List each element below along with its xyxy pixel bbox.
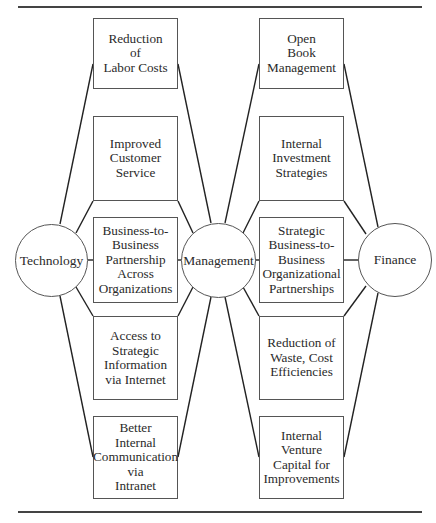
box-label: Open Book Management (267, 32, 336, 76)
node-management: Management (181, 223, 256, 298)
box-label: Internal Venture Capital for Improvement… (263, 429, 339, 487)
node-label: Finance (374, 252, 417, 268)
box-label: Improved Customer Service (110, 137, 161, 181)
box-internal-venture-capital: Internal Venture Capital for Improvement… (259, 416, 344, 499)
node-finance: Finance (358, 223, 432, 297)
box-label: Internal Investment Strategies (272, 137, 331, 181)
box-label: Better Internal Communication via Intran… (93, 421, 178, 494)
box-strategic-b2b-partnerships: Strategic Business-to- Business Organiza… (259, 217, 344, 303)
node-label: Management (183, 253, 253, 269)
box-access-strategic-information: Access to Strategic Information via Inte… (93, 316, 178, 400)
box-better-internal-communication: Better Internal Communication via Intran… (93, 416, 178, 499)
box-label: Business-to- Business Partnership Across… (99, 224, 173, 297)
node-label: Technology (20, 253, 84, 269)
box-label: Reduction of Labor Costs (103, 32, 167, 76)
box-label: Reduction of Waste, Cost Efficiencies (267, 336, 336, 380)
diagram-canvas: Reduction of Labor Costs Improved Custom… (0, 0, 436, 523)
box-label: Strategic Business-to- Business Organiza… (262, 224, 340, 297)
box-improved-customer-service: Improved Customer Service (93, 116, 178, 201)
box-open-book-management: Open Book Management (259, 18, 344, 89)
edge-tech-box1 (60, 64, 93, 224)
box-reduction-of-waste: Reduction of Waste, Cost Efficiencies (259, 316, 344, 400)
box-label: Access to Strategic Information via Inte… (104, 329, 167, 387)
box-b2b-partnership: Business-to- Business Partnership Across… (93, 217, 178, 303)
node-technology: Technology (15, 224, 88, 297)
box-reduction-of-labor-costs: Reduction of Labor Costs (93, 18, 178, 89)
box-internal-investment-strategies: Internal Investment Strategies (259, 116, 344, 201)
